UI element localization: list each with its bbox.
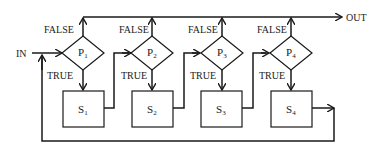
in-label: IN [16,48,27,59]
false-label: FALSE [257,24,287,35]
true-label: TRUE [47,70,73,81]
false-label: FALSE [44,24,74,35]
true-label: TRUE [190,70,216,81]
true-label: TRUE [121,70,147,81]
flowchart-diagram: OUT IN FALSE P1 TRUE S1 FALSE P2 TRUE S2 [0,0,383,153]
stage-4: FALSE P4 TRUE S4 [257,18,312,127]
stage-1: FALSE P1 TRUE S1 [44,18,131,127]
false-label: FALSE [119,24,149,35]
false-label: FALSE [188,24,218,35]
true-label: TRUE [259,70,285,81]
out-label: OUT [346,12,367,23]
